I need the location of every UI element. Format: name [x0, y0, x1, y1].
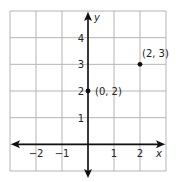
y-tick-label: 1 — [78, 113, 84, 124]
x-axis-label: x — [155, 148, 162, 159]
y-tick-label: 3 — [78, 59, 84, 70]
x-tick-label: 2 — [137, 148, 143, 159]
y-axis-label: y — [93, 12, 101, 23]
x-tick-label: −2 — [29, 148, 44, 159]
tick-labels: −2−1121234 — [29, 33, 144, 160]
x-tick-label: 1 — [111, 148, 117, 159]
data-point — [86, 89, 91, 94]
coordinate-plane: −2−1121234 (0, 2)(2, 3) x y — [0, 0, 176, 182]
point-label: (2, 3) — [142, 48, 169, 59]
y-tick-label: 2 — [78, 86, 84, 97]
data-point — [138, 62, 143, 67]
data-points: (0, 2)(2, 3) — [86, 48, 169, 97]
x-tick-label: −1 — [55, 148, 70, 159]
point-label: (0, 2) — [95, 86, 122, 97]
y-tick-label: 4 — [78, 33, 84, 44]
